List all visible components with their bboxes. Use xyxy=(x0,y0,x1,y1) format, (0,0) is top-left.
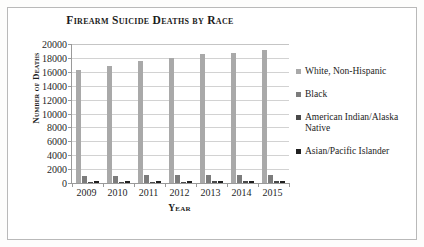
bar xyxy=(138,61,143,183)
y-axis-tick xyxy=(68,100,72,101)
legend-item[interactable]: American Indian/Alaska Native xyxy=(296,112,416,134)
y-axis-tick xyxy=(68,127,72,128)
bar-group xyxy=(169,44,192,183)
y-axis-tick xyxy=(68,86,72,87)
x-axis-tick-label: 2012 xyxy=(170,187,190,198)
bar xyxy=(262,50,267,183)
bar xyxy=(88,182,93,183)
legend-label: Asian/Pacific Islander xyxy=(305,146,389,157)
bar-group xyxy=(231,44,254,183)
bar xyxy=(187,181,192,183)
y-axis-tick xyxy=(68,58,72,59)
y-axis-tick xyxy=(68,141,72,142)
y-axis-tick-label: 6000 xyxy=(47,136,67,147)
bar-group xyxy=(76,44,99,183)
bar xyxy=(218,181,223,183)
legend-item[interactable]: Asian/Pacific Islander xyxy=(296,146,416,157)
y-axis-tick-labels: 2000018000160001400012000100008000600040… xyxy=(18,44,67,183)
bar xyxy=(200,54,205,183)
bar-group xyxy=(262,44,285,183)
bar xyxy=(156,181,161,183)
y-axis-tick xyxy=(68,44,72,45)
y-axis-tick-label: 12000 xyxy=(42,94,67,105)
bar xyxy=(274,181,279,183)
bar xyxy=(94,181,99,183)
bar xyxy=(144,175,149,183)
legend-label: White, Non-Hispanic xyxy=(305,66,386,77)
y-axis-tick xyxy=(68,155,72,156)
x-axis-tick-label: 2011 xyxy=(139,187,159,198)
legend-swatch-icon xyxy=(296,149,301,154)
y-axis-tick-label: 10000 xyxy=(42,108,67,119)
x-axis-tick-labels: 2009201020112012201320142015 xyxy=(71,187,288,201)
bar xyxy=(107,66,112,183)
y-axis-tick-label: 14000 xyxy=(42,80,67,91)
x-axis-tick-label: 2013 xyxy=(201,187,221,198)
bar xyxy=(237,175,242,183)
y-axis-tick-label: 20000 xyxy=(42,39,67,50)
legend-swatch-icon xyxy=(296,92,301,97)
bar xyxy=(206,175,211,183)
x-axis-tick-label: 2014 xyxy=(232,187,252,198)
y-axis-tick-label: 2000 xyxy=(47,164,67,175)
bar xyxy=(280,181,285,183)
legend-label: Black xyxy=(305,89,327,100)
legend-label: American Indian/Alaska Native xyxy=(305,112,416,134)
chart-title: Firearm Suicide Deaths by Race xyxy=(0,14,300,26)
y-axis-tick xyxy=(68,114,72,115)
x-axis-tick-label: 2010 xyxy=(108,187,128,198)
bar-group xyxy=(107,44,130,183)
y-axis-tick xyxy=(68,72,72,73)
bar-group xyxy=(200,44,223,183)
plot-area xyxy=(71,44,289,184)
bar xyxy=(249,181,254,183)
legend-swatch-icon xyxy=(296,69,301,74)
chart-figure: Firearm Suicide Deaths by Race Number of… xyxy=(0,0,424,247)
bar xyxy=(212,181,217,183)
bar xyxy=(113,176,118,184)
bar xyxy=(119,182,124,183)
legend-item[interactable]: Black xyxy=(296,89,416,100)
bar xyxy=(181,182,186,183)
bar xyxy=(231,53,236,183)
y-axis-tick-label: 18000 xyxy=(42,52,67,63)
bar xyxy=(82,176,87,183)
bar xyxy=(125,181,130,183)
x-axis-tick-label: 2015 xyxy=(263,187,283,198)
y-axis-tick-label: 16000 xyxy=(42,66,67,77)
x-axis-tick xyxy=(289,183,290,187)
bar xyxy=(169,58,174,183)
legend-item[interactable]: White, Non-Hispanic xyxy=(296,66,416,77)
bar-group xyxy=(138,44,161,183)
bar xyxy=(150,182,155,183)
legend-swatch-icon xyxy=(296,115,301,120)
x-axis-title: Year xyxy=(71,203,288,213)
bar xyxy=(175,175,180,183)
bar xyxy=(243,181,248,183)
y-axis-tick-label: 4000 xyxy=(47,150,67,161)
y-axis-tick xyxy=(68,169,72,170)
y-axis-tick-label: 0 xyxy=(62,178,67,189)
y-axis-tick-label: 8000 xyxy=(47,122,67,133)
bar xyxy=(268,175,273,183)
x-axis-tick-label: 2009 xyxy=(77,187,97,198)
chart-legend: White, Non-HispanicBlackAmerican Indian/… xyxy=(296,66,416,169)
bar xyxy=(76,70,81,183)
